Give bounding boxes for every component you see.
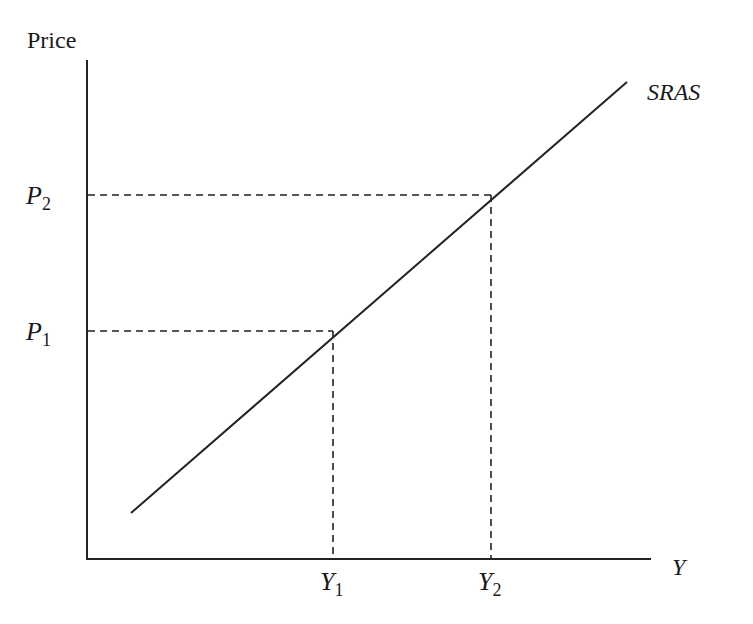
y-axis-label: Price bbox=[27, 27, 76, 53]
y2-label: Y2 bbox=[478, 567, 501, 600]
guide-lines bbox=[88, 195, 491, 559]
x-axis-label: Y bbox=[672, 554, 688, 580]
p1-label: P1 bbox=[25, 317, 51, 350]
y1-label: Y1 bbox=[320, 567, 343, 600]
p2-label: P2 bbox=[25, 181, 51, 214]
sras-label: SRAS bbox=[647, 79, 700, 105]
sras-curve bbox=[131, 82, 627, 513]
sras-diagram: Price SRAS Y P2 P1 Y1 Y2 bbox=[0, 0, 753, 624]
